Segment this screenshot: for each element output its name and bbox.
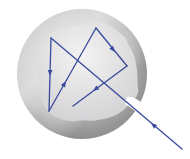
diagram-canvas	[0, 0, 190, 159]
cavity-diagram: Light ray entering a cavity through an a…	[0, 0, 190, 159]
